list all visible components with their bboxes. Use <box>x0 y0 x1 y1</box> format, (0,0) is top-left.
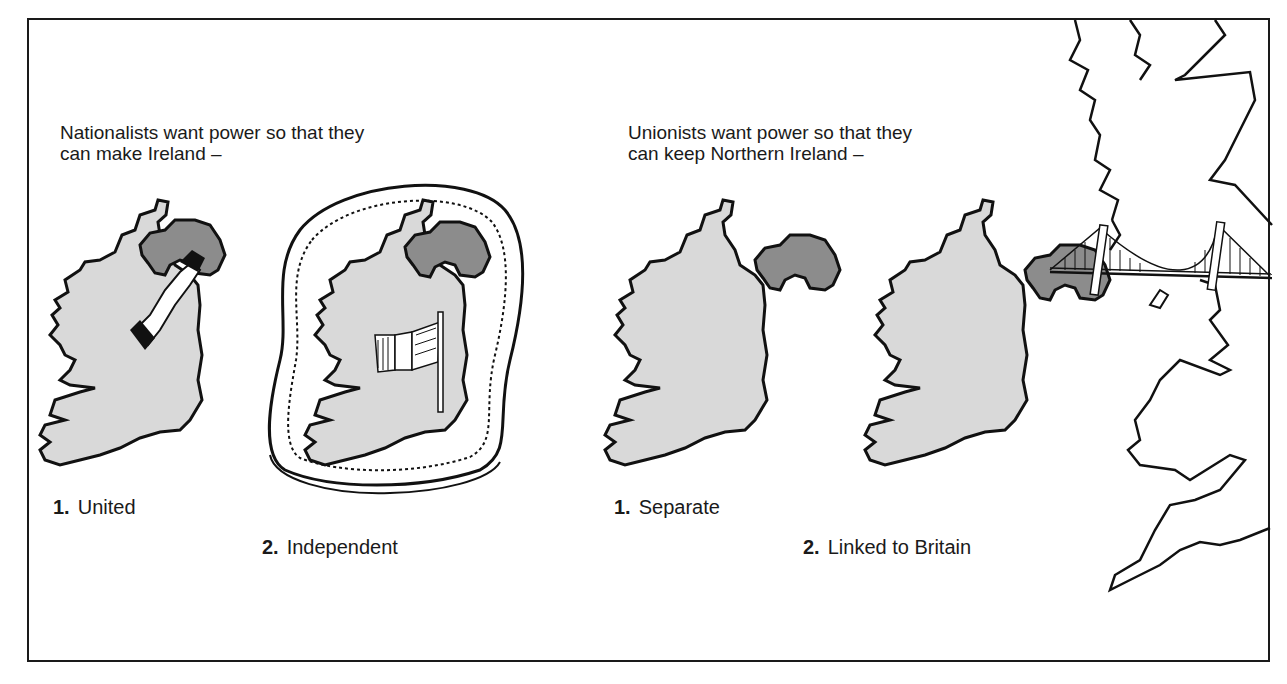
separate-ireland-map <box>605 200 767 465</box>
unionists-heading-line1: Unionists want power so that they <box>628 122 912 143</box>
caption-label: Linked to Britain <box>828 536 971 558</box>
unionists-heading-line2: can keep Northern Ireland – <box>628 143 912 164</box>
separate-northern-ireland <box>755 235 840 290</box>
caption-number: 1. <box>614 496 631 518</box>
caption-number: 2. <box>262 536 279 558</box>
unionists-heading: Unionists want power so that they can ke… <box>628 122 912 164</box>
caption-label: Separate <box>639 496 720 518</box>
nationalists-heading: Nationalists want power so that they can… <box>60 122 364 164</box>
illustration-canvas <box>0 0 1287 684</box>
independent-ireland-map <box>305 200 490 465</box>
caption-separate: 1.Separate <box>614 496 720 519</box>
caption-linked-to-britain: 2.Linked to Britain <box>803 536 971 559</box>
caption-label: United <box>78 496 136 518</box>
caption-number: 1. <box>53 496 70 518</box>
nationalists-heading-line2: can make Ireland – <box>60 143 364 164</box>
caption-independent: 2.Independent <box>262 536 398 559</box>
caption-united: 1.United <box>53 496 136 519</box>
britain-coastline <box>1070 20 1272 590</box>
caption-number: 2. <box>803 536 820 558</box>
caption-label: Independent <box>287 536 398 558</box>
linked-ireland-map <box>865 200 1027 465</box>
nationalists-heading-line1: Nationalists want power so that they <box>60 122 364 143</box>
